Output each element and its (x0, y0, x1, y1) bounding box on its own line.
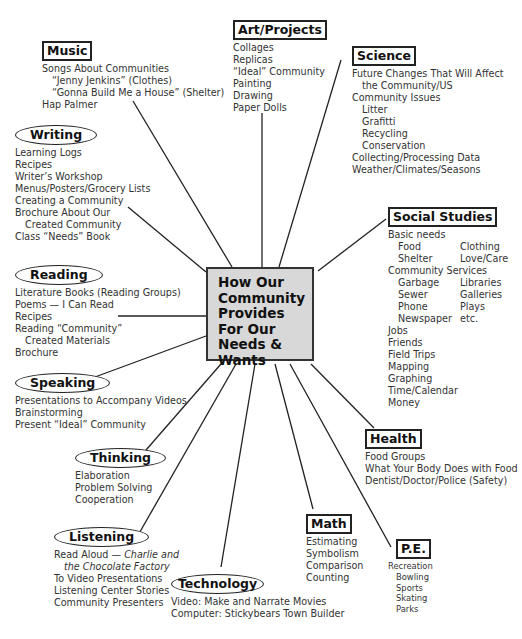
thinking-item: Elaboration (75, 470, 166, 482)
connector-math (275, 364, 313, 509)
pe-item: Recreation (388, 561, 433, 572)
writing-item: Class “Needs” Book (15, 231, 150, 243)
social-item: Plays (460, 301, 522, 313)
reading-title: Reading (15, 265, 103, 285)
music-title: Music (42, 41, 92, 61)
art-item: “Ideal” Community (233, 66, 327, 78)
science-item: Litter (352, 104, 503, 116)
math-title: Math (306, 514, 352, 534)
social-item: Graphing (388, 373, 522, 385)
art-item: Paper Dolls (233, 102, 327, 114)
reading-item: Created Materials (15, 335, 181, 347)
speaking-title: Speaking (15, 373, 110, 393)
central-topic-title: How Our Community Provides For Our Needs… (218, 275, 312, 368)
central-topic-box: How Our Community Provides For Our Needs… (206, 267, 314, 361)
art-item: Replicas (233, 54, 327, 66)
health-item: Dentist/Doctor/Police (Safety) (365, 475, 518, 487)
writing-item: Learning Logs (15, 147, 150, 159)
writing-item: Created Community (15, 219, 150, 231)
listening-item: To Video Presentations (54, 573, 179, 585)
writing-item: Writer’s Workshop (15, 171, 150, 183)
social-item: Clothing (460, 241, 522, 253)
writing-item: Creating a Community (15, 195, 150, 207)
math-item: Symbolism (306, 548, 363, 560)
writing-item: Brochure About Our (15, 207, 150, 219)
reading-item: Reading “Community” (15, 323, 181, 335)
branch-science: Science Future Changes That Will Affect … (352, 45, 503, 176)
science-item: Collecting/Processing Data (352, 152, 503, 164)
branch-reading: Reading Literature Books (Reading Groups… (15, 264, 181, 359)
social-item: etc. (460, 313, 522, 325)
social-item: Galleries (460, 289, 522, 301)
listening-item: Listening Center Stories (54, 585, 179, 597)
art-item: Drawing (233, 90, 327, 102)
social-item: Food (398, 241, 460, 253)
science-item: Future Changes That Will Affect (352, 68, 503, 80)
music-item: Songs About Communities (42, 63, 224, 75)
health-item: What Your Body Does with Food (365, 463, 518, 475)
reading-item: Recipes (15, 311, 181, 323)
art-item: Collages (233, 42, 327, 54)
listening-book-title: the Chocolate Factory (64, 561, 170, 572)
thinking-title: Thinking (75, 448, 166, 468)
connector-social (318, 219, 386, 271)
social-item: Basic needs (388, 229, 522, 241)
math-item: Comparison (306, 560, 363, 572)
listening-item: Community Presenters (54, 597, 179, 609)
listening-title: Listening (54, 527, 149, 547)
writing-title: Writing (15, 125, 97, 145)
speaking-item: Presentations to Accompany Videos (15, 395, 187, 407)
social-item: Money (388, 397, 522, 409)
branch-social-studies: Social Studies Basic needs FoodClothing … (388, 206, 522, 409)
social-item: Newspaper (398, 313, 460, 325)
technology-item: Video: Make and Narrate Movies (171, 596, 344, 608)
branch-music: Music Songs About Communities “Jenny Jen… (42, 40, 224, 111)
reading-item: Poems — I Can Read (15, 299, 181, 311)
technology-item: Computer: Stickybears Town Builder (171, 608, 344, 620)
social-item: Love/Care (460, 253, 522, 265)
social-item: Phone (398, 301, 460, 313)
thinking-item: Problem Solving (75, 482, 166, 494)
science-item: Grafitti (352, 116, 503, 128)
speaking-item: Present “Ideal” Community (15, 419, 187, 431)
science-item: Weather/Climates/Seasons (352, 164, 503, 176)
science-item: the Community/US (352, 80, 503, 92)
branch-speaking: Speaking Presentations to Accompany Vide… (15, 372, 187, 431)
social-item: Garbage (398, 277, 460, 289)
listening-book-title: Charlie and (124, 549, 179, 560)
science-title: Science (352, 46, 416, 66)
social-item: Jobs (388, 325, 522, 337)
social-item: Libraries (460, 277, 522, 289)
science-item: Recycling (352, 128, 503, 140)
branch-thinking: Thinking Elaboration Problem Solving Coo… (75, 447, 166, 506)
science-item: Community Issues (352, 92, 503, 104)
branch-pe: P.E. Recreation Bowling Sports Skating P… (396, 538, 433, 615)
reading-item: Literature Books (Reading Groups) (15, 287, 181, 299)
listening-item: Read Aloud — (54, 549, 124, 560)
branch-health: Health Food Groups What Your Body Does w… (365, 428, 518, 487)
reading-item: Brochure (15, 347, 181, 359)
pe-title: P.E. (396, 539, 431, 559)
branch-writing: Writing Learning Logs Recipes Writer’s W… (15, 124, 150, 243)
art-item: Painting (233, 78, 327, 90)
branch-art-projects: Art/Projects Collages Replicas “Ideal” C… (233, 19, 327, 114)
thinking-item: Cooperation (75, 494, 166, 506)
writing-item: Menus/Posters/Grocery Lists (15, 183, 150, 195)
music-item: “Gonna Build Me a House” (Shelter) (42, 87, 224, 99)
pe-item: Skating (396, 593, 433, 604)
speaking-item: Brainstorming (15, 407, 187, 419)
science-item: Conservation (352, 140, 503, 152)
pe-item: Parks (396, 604, 433, 615)
pe-item: Sports (396, 583, 433, 594)
branch-listening: Listening Read Aloud — Charlie and the C… (54, 526, 179, 609)
writing-item: Recipes (15, 159, 150, 171)
branch-technology: Technology Video: Make and Narrate Movie… (171, 573, 344, 620)
social-item: Shelter (398, 253, 460, 265)
social-item: Community Services (388, 265, 522, 277)
health-item: Food Groups (365, 451, 518, 463)
social-item: Sewer (398, 289, 460, 301)
technology-title: Technology (171, 574, 264, 594)
connector-technology (221, 364, 255, 567)
health-title: Health (365, 429, 422, 449)
social-item: Time/Calendar (388, 385, 522, 397)
